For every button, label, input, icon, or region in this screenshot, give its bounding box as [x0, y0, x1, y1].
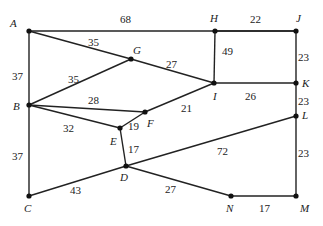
node-label-B: B — [13, 100, 20, 112]
node-C — [26, 193, 31, 198]
node-F — [142, 109, 147, 114]
edge-weight-B-G: 35 — [68, 73, 80, 85]
edge-weight-N-M: 17 — [259, 202, 271, 214]
node-H — [212, 28, 217, 33]
node-label-M: M — [299, 202, 310, 214]
edge-weight-F-I: 21 — [181, 102, 192, 114]
edge-weight-D-L: 72 — [217, 145, 228, 157]
node-labels: AHJGIKBFELDCNM — [9, 12, 310, 214]
node-A — [26, 28, 31, 33]
edge-D-N — [126, 166, 231, 196]
node-G — [128, 56, 133, 61]
edge-B-G — [29, 59, 131, 105]
edge-weight-H-J: 22 — [250, 13, 261, 25]
node-label-A: A — [9, 17, 17, 29]
node-label-K: K — [301, 77, 310, 89]
edge-B-E — [29, 105, 120, 128]
edge-weight-A-B: 37 — [12, 70, 24, 82]
edge-F-I — [145, 83, 214, 112]
edge-weight-B-F: 28 — [88, 94, 100, 106]
node-label-L: L — [301, 109, 308, 121]
edge-A-G — [29, 31, 131, 59]
node-I — [211, 80, 216, 85]
node-label-J: J — [296, 12, 302, 24]
node-E — [117, 125, 122, 130]
edge-weight-K-L: 23 — [298, 95, 310, 107]
node-label-H: H — [209, 12, 219, 24]
edge-weights: 6835273735283219212249232623173743722723… — [12, 13, 310, 214]
edge-weight-C-D: 43 — [70, 184, 82, 196]
edge-weight-G-I: 27 — [166, 58, 178, 70]
node-label-G: G — [133, 44, 141, 56]
edge-weight-A-J: 68 — [120, 13, 132, 25]
node-label-C: C — [24, 202, 32, 214]
node-label-F: F — [146, 117, 154, 129]
node-B — [26, 102, 31, 107]
edge-B-F — [29, 105, 145, 112]
node-J — [293, 28, 298, 33]
edge-weight-J-K: 23 — [298, 51, 310, 63]
node-L — [293, 113, 298, 118]
edge-H-I — [214, 31, 215, 83]
node-M — [293, 193, 298, 198]
node-D — [123, 163, 128, 168]
node-N — [228, 193, 233, 198]
edge-E-D — [120, 128, 126, 166]
edge-weight-H-I: 49 — [222, 45, 234, 57]
edge-weight-I-K: 26 — [245, 90, 257, 102]
node-label-I: I — [212, 90, 218, 102]
node-label-D: D — [119, 171, 128, 183]
edge-weight-L-M: 23 — [298, 147, 310, 159]
node-label-E: E — [109, 135, 117, 147]
edge-weight-D-N: 27 — [165, 183, 177, 195]
edge-weight-B-C: 37 — [12, 150, 24, 162]
node-K — [293, 80, 298, 85]
edge-weight-A-G: 35 — [88, 36, 100, 48]
edge-weight-B-E: 32 — [63, 122, 74, 134]
weighted-graph: 6835273735283219212249232623173743722723… — [0, 0, 323, 226]
node-label-N: N — [225, 202, 234, 214]
edge-weight-E-F: 19 — [128, 120, 140, 132]
edges — [29, 31, 296, 196]
nodes — [26, 28, 298, 198]
edge-weight-E-D: 17 — [128, 143, 140, 155]
